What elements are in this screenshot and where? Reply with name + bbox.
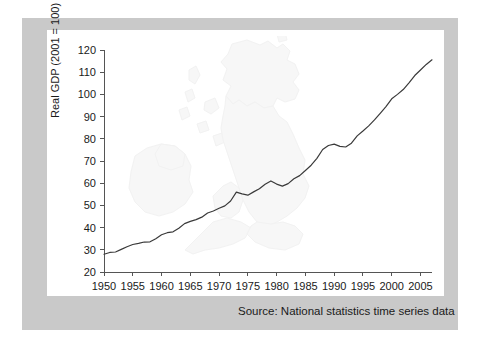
data-line-real-gdp-2001-100 xyxy=(104,60,432,254)
x-tick-label: 1995 xyxy=(351,280,375,292)
y-tick-label: 60 xyxy=(84,177,96,189)
x-tick-label: 1985 xyxy=(293,280,317,292)
y-tick-label: 100 xyxy=(78,88,96,100)
y-tick-label: 90 xyxy=(84,111,96,123)
x-tick-label: 1970 xyxy=(207,280,231,292)
x-tick-label: 1980 xyxy=(264,280,288,292)
x-tick-label: 1975 xyxy=(236,280,260,292)
y-tick-label: 110 xyxy=(78,66,96,78)
y-tick-label: 20 xyxy=(84,266,96,278)
y-axis-title: Real GDP (2001 = 100) xyxy=(49,3,61,118)
x-tick-label: 2005 xyxy=(408,280,432,292)
plot-panel: 2030405060708090100110120195019551960196… xyxy=(47,30,444,296)
y-tick-label: 120 xyxy=(78,44,96,56)
chart-figure: 2030405060708090100110120195019551960196… xyxy=(0,0,480,348)
source-note: Source: National statistics time series … xyxy=(238,305,455,317)
chart-series xyxy=(104,60,432,254)
y-tick-label: 50 xyxy=(84,199,96,211)
y-tick-label: 30 xyxy=(84,244,96,256)
y-tick-label: 70 xyxy=(84,155,96,167)
chart-axes: 2030405060708090100110120195019551960196… xyxy=(78,44,433,292)
x-tick-label: 1960 xyxy=(149,280,173,292)
x-tick-label: 1955 xyxy=(121,280,145,292)
x-tick-label: 1950 xyxy=(92,280,116,292)
x-tick-label: 2000 xyxy=(379,280,403,292)
x-tick-label: 1990 xyxy=(322,280,346,292)
plot-area: 2030405060708090100110120195019551960196… xyxy=(47,30,444,296)
y-tick-label: 40 xyxy=(84,222,96,234)
x-tick-label: 1965 xyxy=(178,280,202,292)
y-tick-label: 80 xyxy=(84,133,96,145)
